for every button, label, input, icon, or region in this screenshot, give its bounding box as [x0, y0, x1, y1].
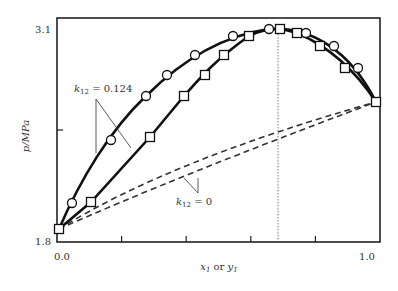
x-tick-label-right: 1.0	[359, 251, 375, 262]
svg-text:k12 = 0.124: k12 = 0.124	[74, 83, 132, 96]
dew-point-markers	[55, 25, 381, 234]
x-ticks	[122, 236, 316, 242]
k12-0124-dew-curve	[59, 29, 376, 229]
x-tick-label-left: 0.0	[54, 251, 70, 262]
k12-0-dew-curve	[59, 102, 376, 229]
y-tick-label-bottom: 1.8	[35, 236, 51, 247]
y-tick-label-top: 3.1	[35, 24, 51, 35]
svg-text:k12 = 0: k12 = 0	[176, 196, 212, 209]
k12-0-bubble-curve	[59, 102, 376, 229]
x-axis-label: x1 or y1	[200, 261, 237, 274]
k12-0124-bubble-curve	[59, 29, 376, 229]
annotation-k12-0: k12 = 0	[176, 178, 212, 209]
y-axis-label: p/MPa	[20, 120, 31, 152]
pressure-composition-chart: 3.1 1.8 0.0 1.0 p/MPa x1 or y1	[0, 0, 398, 291]
